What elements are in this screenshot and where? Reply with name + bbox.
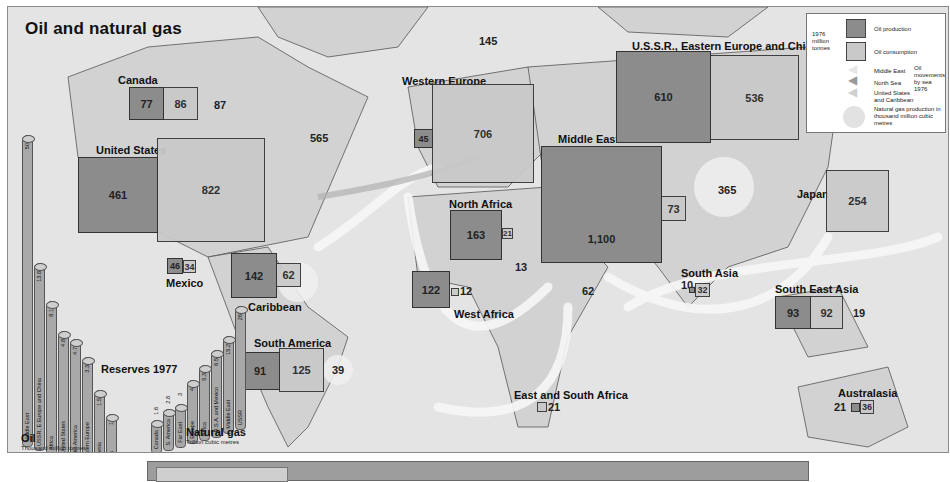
west-africa-production: 122 bbox=[412, 271, 450, 308]
western-europe-production: 45 bbox=[414, 129, 433, 148]
gas-reserves-title: Natural gas bbox=[186, 426, 246, 438]
north-africa-consumption: 21 bbox=[502, 228, 513, 239]
arrow-icon-north-sea: ◀ bbox=[848, 77, 857, 84]
oil-reserves-title: Oil bbox=[21, 432, 36, 444]
arrow-icon-middle-east: ◀ bbox=[848, 66, 857, 73]
gas-reserve-far-east: 3Far East bbox=[175, 404, 186, 448]
australasia-production bbox=[851, 403, 860, 412]
legend-gas-label: Natural gas production in thousand milli… bbox=[874, 106, 942, 127]
south-america-gas: 39 bbox=[332, 364, 344, 376]
south-east-asia-gas: 19 bbox=[853, 307, 865, 319]
gas-circle-icon bbox=[843, 106, 865, 128]
region-label-japan: Japan bbox=[797, 188, 829, 200]
oil-reserve-canada: 1Canada bbox=[106, 414, 117, 453]
legend-consumption-label: Oil consumption bbox=[874, 49, 917, 56]
legend-movements-title: Oil movements by sea 1976 bbox=[914, 65, 942, 93]
us-gas: 565 bbox=[310, 132, 328, 144]
north-africa-production: 163 bbox=[450, 210, 502, 260]
region-label-australasia: Australasia bbox=[838, 387, 897, 399]
east-south-africa-consumption: 21 bbox=[537, 402, 547, 412]
east-south-africa-consumption-value: 21 bbox=[548, 401, 560, 413]
canada-production: 77 bbox=[129, 87, 164, 120]
south-america-consumption: 125 bbox=[279, 348, 324, 392]
region-label-united-states: United States bbox=[96, 144, 166, 156]
oil-reserve-africa: 8.1Africa bbox=[46, 301, 57, 453]
us-consumption: 822 bbox=[157, 138, 265, 242]
oil-reserve-indonesia: 1.5Indonesia bbox=[94, 390, 105, 453]
canada-gas: 87 bbox=[214, 99, 226, 111]
gas-reserve-s-america: 2.8S. America bbox=[163, 409, 174, 451]
western-europe-consumption: 706 bbox=[432, 84, 534, 183]
gas-reserve-canada: 1.6Canada bbox=[151, 420, 162, 453]
region-label-caribbean: Caribbean bbox=[248, 301, 302, 313]
oil-reserves-units: Thousand million tonnes bbox=[21, 445, 86, 451]
legend-consumption-swatch bbox=[846, 42, 866, 61]
bottom-bar-inner bbox=[156, 467, 288, 482]
gas-reserve-ussr: 26USSR bbox=[235, 306, 246, 430]
reserves-title: Reserves 1977 bbox=[101, 363, 177, 375]
south-east-asia-consumption: 92 bbox=[810, 296, 843, 329]
south-east-asia-production: 93 bbox=[775, 296, 811, 329]
legend: 1976 million tonnes Oil production Oil c… bbox=[806, 13, 946, 107]
gas-reserves-units: Trillion cubic metres bbox=[186, 439, 239, 445]
legend-units: 1976 million tonnes bbox=[812, 31, 836, 52]
gas-reserve-middle-east: 15.2Middle East bbox=[223, 336, 234, 434]
west-africa-consumption: 12 bbox=[451, 288, 459, 296]
us-production: 461 bbox=[78, 157, 158, 233]
region-label-mexico: Mexico bbox=[166, 277, 203, 289]
region-label-south-east-asia: South East Asia bbox=[775, 283, 858, 295]
oil-reserve-latin-america: 4.7Latin America bbox=[70, 339, 81, 453]
oil-reserve-middle-east: 50Middle East bbox=[22, 135, 33, 447]
caribbean-production: 142 bbox=[231, 253, 277, 298]
middle-east-production: 1,100 bbox=[541, 146, 662, 263]
oil-reserve-western-europe: 3.3Western Europe bbox=[82, 357, 93, 453]
legend-north-sea: North Sea bbox=[874, 80, 901, 87]
mexico-consumption: 34 bbox=[183, 260, 196, 273]
mexico-production: 46 bbox=[167, 258, 183, 274]
australasia-production-value: 21 bbox=[834, 401, 846, 413]
region-label-middle-east: Middle East bbox=[558, 133, 619, 145]
arrow-icon-us-caribbean: ◀ bbox=[848, 89, 857, 96]
south-america-production: 91 bbox=[240, 352, 280, 390]
west-africa-consumption-value: 12 bbox=[460, 285, 472, 297]
legend-production-label: Oil production bbox=[874, 26, 911, 33]
australasia-consumption: 36 bbox=[860, 400, 874, 414]
middle-east-gas: 62 bbox=[582, 285, 594, 297]
japan-consumption: 254 bbox=[826, 170, 889, 232]
legend-gas-box: Natural gas production in thousand milli… bbox=[806, 104, 946, 133]
region-label-canada: Canada bbox=[118, 74, 158, 86]
ussr-consumption: 536 bbox=[710, 55, 799, 140]
north-africa-gas: 13 bbox=[515, 261, 527, 273]
ussr-production: 610 bbox=[616, 51, 711, 143]
south-asia-consumption: 32 bbox=[695, 283, 710, 297]
gas-reserve-usa-mexico: 6.5U.S.A. and Mexico bbox=[211, 350, 222, 438]
bottom-bar bbox=[147, 461, 809, 481]
oil-reserve-united-states: 4.8United States bbox=[58, 331, 69, 453]
region-label-south-asia: South Asia bbox=[681, 267, 738, 279]
region-label-west-africa: West Africa bbox=[454, 308, 514, 320]
legend-us-caribbean: United States and Caribbean bbox=[874, 90, 914, 104]
map-title: Oil and natural gas bbox=[25, 19, 182, 39]
region-label-north-africa: North Africa bbox=[449, 198, 512, 210]
legend-middle-east: Middle East bbox=[874, 68, 905, 75]
caribbean-consumption: 62 bbox=[276, 263, 301, 287]
region-label-east-south-africa: East and South Africa bbox=[514, 389, 628, 401]
oil-reserve-ussr: 13.8USSR, E.Europe and China bbox=[34, 263, 45, 451]
ussr-gas: 365 bbox=[718, 184, 736, 196]
canada-consumption: 86 bbox=[163, 87, 198, 120]
western-europe-gas: 145 bbox=[479, 35, 497, 47]
middle-east-consumption: 73 bbox=[661, 196, 686, 221]
legend-production-swatch bbox=[846, 19, 866, 38]
